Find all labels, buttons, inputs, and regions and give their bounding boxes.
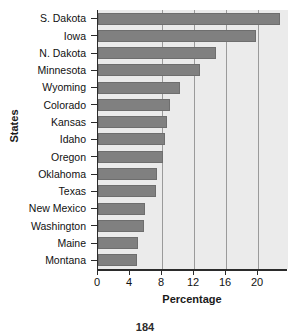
y-axis-tick-label-row: Minnesota (0, 62, 89, 79)
y-axis-tick-label: Montana (45, 255, 86, 266)
bar-row (98, 252, 288, 269)
bar-row (98, 217, 288, 234)
bar-row (98, 200, 288, 217)
x-axis-tick-label: 12 (187, 276, 199, 288)
y-axis-tick-label: Maine (57, 238, 86, 249)
bar-row (98, 96, 288, 113)
bar (98, 237, 138, 249)
y-axis-tick-label-row: New Mexico (0, 200, 89, 217)
plot-area (97, 10, 288, 269)
bar (98, 47, 216, 59)
y-axis-tick-label-row: Oklahoma (0, 165, 89, 182)
bar (98, 203, 145, 215)
y-axis-tick-label-row: N. Dakota (0, 45, 89, 62)
bar (98, 116, 167, 128)
bar-series (98, 10, 288, 269)
y-axis-tick-label-row: Montana (0, 252, 89, 269)
x-axis-tick-label: 4 (126, 276, 132, 288)
plot-inner (98, 10, 288, 269)
bar-row (98, 27, 288, 44)
bar (98, 133, 165, 145)
x-axis-tick-mark (161, 270, 162, 275)
y-axis-tick-label-row: S. Dakota (0, 10, 89, 27)
bar (98, 82, 180, 94)
y-axis-tick-label: S. Dakota (40, 13, 86, 24)
y-axis-tick-label: Kansas (51, 117, 86, 128)
x-axis-title: Percentage (97, 293, 287, 305)
x-axis-tick-mark (129, 270, 130, 275)
bar-row (98, 45, 288, 62)
bar-row (98, 114, 288, 131)
y-axis-tick-label-row: Iowa (0, 27, 89, 44)
y-axis-tick-label: Minnesota (38, 65, 86, 76)
y-axis-tick-label-row: Kansas (0, 114, 89, 131)
y-axis-tick-label-row: Oregon (0, 148, 89, 165)
x-axis-tick-label: 8 (158, 276, 164, 288)
y-axis-tick-label: Idaho (60, 134, 86, 145)
bar (98, 168, 157, 180)
y-axis-tick-label: Colorado (43, 100, 86, 111)
bar-row (98, 79, 288, 96)
bar-row (98, 183, 288, 200)
y-axis-tick-label: Texas (59, 186, 86, 197)
x-axis-tick-label: 0 (94, 276, 100, 288)
bar (98, 151, 163, 163)
bar (98, 254, 137, 266)
bar-chart-figure: States S. DakotaIowaN. DakotaMinnesotaWy… (0, 0, 290, 333)
bar-row (98, 10, 288, 27)
y-axis-tick-label: Washington (31, 221, 86, 232)
bar-row (98, 234, 288, 251)
x-axis-tick-label: 16 (219, 276, 231, 288)
bar-row (98, 62, 288, 79)
x-axis-tick-label: 20 (251, 276, 263, 288)
bar (98, 220, 144, 232)
y-axis-tick-labels: S. DakotaIowaN. DakotaMinnesotaWyomingCo… (0, 10, 89, 269)
bar-row (98, 165, 288, 182)
x-axis-tick-mark (97, 270, 98, 275)
y-axis-tick-label-row: Wyoming (0, 79, 89, 96)
y-axis-tick-label-row: Colorado (0, 96, 89, 113)
x-axis-tick-mark (257, 270, 258, 275)
bar-row (98, 131, 288, 148)
bar-row (98, 148, 288, 165)
x-axis-tick-mark (225, 270, 226, 275)
x-axis-line (97, 269, 287, 271)
y-axis-tick-label-row: Idaho (0, 131, 89, 148)
y-axis-tick-label: N. Dakota (39, 48, 86, 59)
y-axis-tick-label: New Mexico (29, 203, 86, 214)
bar (98, 99, 170, 111)
bar (98, 30, 256, 42)
bar (98, 13, 280, 25)
bar (98, 64, 200, 76)
x-axis-tick-mark (193, 270, 194, 275)
y-axis-tick-label: Oregon (51, 152, 86, 163)
y-axis-tick-label: Iowa (64, 31, 86, 42)
page-number: 184 (0, 321, 290, 333)
y-axis-tick-label-row: Texas (0, 183, 89, 200)
y-axis-tick-label: Wyoming (42, 82, 86, 93)
y-axis-tick-label: Oklahoma (38, 169, 86, 180)
bar (98, 185, 156, 197)
y-axis-tick-label-row: Washington (0, 217, 89, 234)
y-axis-tick-label-row: Maine (0, 234, 89, 251)
